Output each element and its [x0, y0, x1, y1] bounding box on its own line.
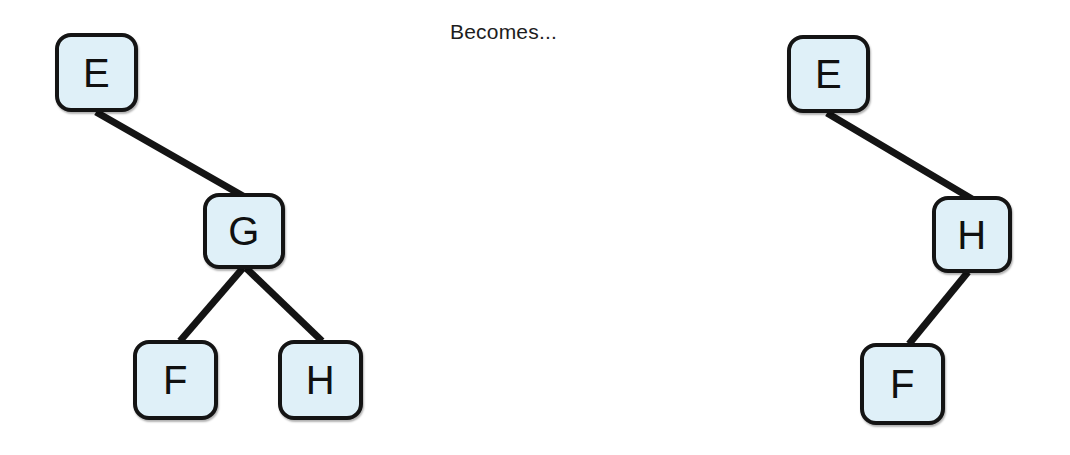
node-label: G [228, 211, 260, 251]
edge-left-g-h [246, 268, 322, 341]
right-tree-node-h[interactable]: H [932, 196, 1012, 273]
left-tree-node-h[interactable]: H [278, 340, 363, 420]
node-label: F [890, 364, 915, 404]
edge-left-e-g [96, 112, 243, 196]
diagram-canvas: Becomes... E G F H E H F [0, 0, 1070, 455]
right-tree-node-e[interactable]: E [787, 35, 870, 113]
left-tree-node-g[interactable]: G [203, 193, 285, 269]
node-label: E [83, 53, 110, 93]
left-tree-node-f[interactable]: F [133, 340, 218, 420]
node-label: F [163, 360, 188, 400]
edge-right-e-h [827, 113, 972, 199]
node-label: E [815, 54, 842, 94]
right-tree-node-f[interactable]: F [860, 343, 945, 425]
becomes-caption: Becomes... [450, 20, 557, 44]
edge-left-g-f [180, 268, 243, 341]
left-tree-node-e[interactable]: E [55, 33, 138, 112]
node-label: H [306, 360, 335, 400]
edge-right-h-f [909, 272, 968, 344]
node-label: H [957, 215, 986, 255]
